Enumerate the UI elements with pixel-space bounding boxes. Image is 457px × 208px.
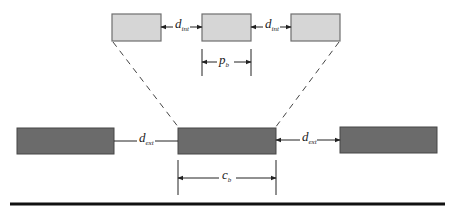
bundle-spacing-diagram: dint dint pb dext dext cb [0, 0, 457, 208]
d-ext-right-dimension: dext [276, 129, 340, 146]
c-b-label: cb [222, 167, 232, 184]
d-ext-right-label: dext [302, 129, 318, 146]
p-b-label: pb [218, 52, 230, 69]
d-ext-left-label: dext [139, 130, 155, 147]
bottom-right-bundle [340, 127, 437, 153]
d-int-right-label: dint [265, 16, 280, 33]
c-b-dimension: cb [178, 160, 276, 195]
d-ext-left-dimension: dext [114, 130, 178, 147]
top-right-subconductor [291, 14, 340, 41]
projection-line-right [275, 42, 339, 128]
bottom-center-bundle [178, 128, 276, 154]
d-int-left-dimension: dint [161, 16, 202, 33]
d-int-right-dimension: dint [251, 16, 291, 33]
bottom-left-bundle [17, 128, 114, 154]
top-middle-subconductor [202, 14, 251, 41]
p-b-dimension: pb [202, 49, 251, 76]
d-int-left-label: dint [175, 16, 190, 33]
top-left-subconductor [112, 14, 161, 41]
projection-line-left [113, 42, 179, 128]
